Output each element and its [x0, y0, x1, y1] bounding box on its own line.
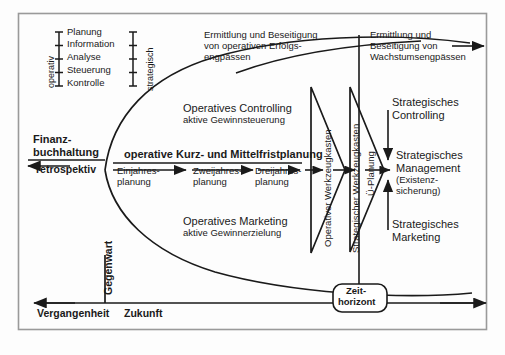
- scale-label-operativ: operativ: [46, 56, 56, 88]
- operative-controlling-title: Operatives Controlling: [183, 102, 292, 114]
- time-axis-future-label: Zukunft: [124, 308, 163, 320]
- finanzbuchhaltung-line1: Finanz-: [33, 133, 72, 145]
- callout-growth-bottleneck-line3: Wachstumsengpässen: [370, 52, 466, 63]
- scale-item-planung: Planung: [67, 27, 102, 38]
- present-label: Gegenwart: [103, 241, 115, 295]
- scale-ticks-left: [55, 32, 63, 86]
- scale-item-analyse: Analyse: [67, 52, 101, 63]
- scale-item-steuerung: Steuerung: [67, 65, 111, 76]
- scale-item-information: Information: [67, 39, 115, 50]
- strategic-toolbox-label: Strategischer Werkzeugkasten: [351, 124, 362, 253]
- planning-step-3-line2: planung: [255, 177, 289, 188]
- strategic-management-line4: sicherung): [396, 186, 440, 197]
- planning-step-2-line2: planung: [193, 177, 227, 188]
- operative-marketing-subtitle: aktive Gewinnerzielung: [183, 228, 281, 239]
- scale-label-strategisch: strategisch: [145, 47, 155, 91]
- time-horizon-label-line2: horizont: [338, 297, 375, 308]
- time-axis-past-label: Vergangenheit: [37, 308, 109, 320]
- diagram-canvas: operativ Planung Information Analyse Ste…: [0, 0, 505, 355]
- operative-marketing-title: Operatives Marketing: [183, 215, 288, 227]
- strategic-marketing-line2: Marketing: [392, 231, 440, 243]
- transition-planning-label: Ü-Planung: [366, 151, 377, 196]
- strategic-controlling-line1: Strategisches: [392, 96, 459, 108]
- planning-step-1-line2: planung: [117, 177, 151, 188]
- retrospektiv-label: retrospektiv: [36, 164, 96, 176]
- finanzbuchhaltung-line2: buchhaltung: [33, 146, 99, 158]
- planning-heading: operative Kurz- und Mittelfristplanung: [124, 148, 323, 160]
- strategic-management-line2: Management: [396, 162, 460, 174]
- operative-controlling-subtitle: aktive Gewinnsteuerung: [183, 115, 285, 126]
- scale-ticks-right: [129, 32, 137, 86]
- operative-toolbox-label: Operativer Werkzeugkasten: [323, 129, 334, 247]
- callout-operative-bottleneck-line3: engpässen: [204, 52, 250, 63]
- strategic-marketing-line1: Strategisches: [392, 218, 459, 230]
- strategic-management-line1: Strategisches: [396, 149, 463, 161]
- scale-item-kontrolle: Kontrolle: [67, 78, 105, 89]
- strategic-controlling-line2: Controlling: [392, 109, 445, 121]
